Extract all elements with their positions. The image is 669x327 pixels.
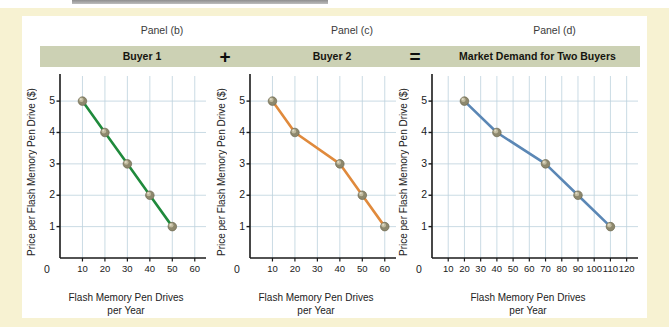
y-tick-label: 3 [38, 157, 55, 169]
y-tick-label: 4 [228, 125, 245, 137]
x-tick-label: 30 [117, 263, 137, 274]
x-tick-label: 60 [185, 263, 205, 274]
chart-panel-c: Price per Flash Memory Pen Drive ($) Fla… [214, 70, 400, 310]
x-axis-origin-label: 0 [416, 263, 422, 275]
x-axis-label-b: Flash Memory Pen Drives per Year [42, 292, 210, 317]
y-axis-label-b: Price per Flash Memory Pen Drive ($) [26, 72, 37, 272]
x-tick-label: 10 [262, 263, 282, 274]
x-tick-label: 40 [330, 263, 350, 274]
y-tick-label: 2 [410, 188, 427, 200]
x-axis-label-b-line1: Flash Memory Pen Drives [68, 292, 183, 303]
x-tick-label: 120 [617, 263, 637, 274]
plot-area-d [414, 70, 642, 275]
x-axis-label-d: Flash Memory Pen Drives per Year [414, 292, 642, 317]
x-axis-label-d-line2: per Year [509, 305, 546, 316]
x-tick-label: 20 [95, 263, 115, 274]
y-tick-label: 5 [38, 94, 55, 106]
x-tick-label: 60 [375, 263, 395, 274]
x-tick-label: 50 [162, 263, 182, 274]
y-tick-label: 3 [410, 157, 427, 169]
x-tick-label: 50 [352, 263, 372, 274]
x-axis-origin-label: 0 [44, 263, 50, 275]
y-axis-label-c: Price per Flash Memory Pen Drive ($) [216, 72, 227, 272]
x-axis-label-b-line2: per Year [107, 305, 144, 316]
chart-panel-d: Price per Flash Memory Pen Drive ($) Fla… [396, 70, 641, 310]
y-tick-label: 1 [38, 220, 55, 232]
plus-sign-icon: + [210, 47, 240, 66]
x-tick-label: 10 [72, 263, 92, 274]
y-tick-label: 5 [228, 94, 245, 106]
x-axis-label-c: Flash Memory Pen Drives per Year [232, 292, 400, 317]
x-axis-label-d-line1: Flash Memory Pen Drives [470, 292, 585, 303]
panel-caption-b: Panel (b) [82, 24, 242, 36]
band-title-market-demand: Market Demand for Two Buyers [440, 50, 635, 62]
y-tick-label: 5 [410, 94, 427, 106]
x-axis-origin-label: 0 [234, 263, 240, 275]
panel-header-band: Buyer 1 + = Buyer 2 Market Demand for Tw… [40, 46, 640, 67]
y-tick-label: 2 [38, 188, 55, 200]
panel-caption-d: Panel (d) [462, 24, 647, 36]
x-tick-label: 40 [140, 263, 160, 274]
plot-area-c [232, 70, 400, 275]
band-title-buyer-2: Buyer 2 [252, 50, 412, 62]
y-tick-label: 1 [228, 220, 245, 232]
chart-panel-b: Price per Flash Memory Pen Drive ($) Fla… [24, 70, 210, 310]
band-title-buyer-1: Buyer 1 [62, 50, 222, 62]
x-tick-label: 30 [307, 263, 327, 274]
y-tick-label: 4 [410, 125, 427, 137]
panel-caption-row: Panel (b) Panel (c) Panel (d) [22, 24, 647, 44]
y-tick-label: 3 [228, 157, 245, 169]
y-axis-label-d: Price per Flash Memory Pen Drive ($) [398, 72, 409, 272]
figure-frame: Panel (b) Panel (c) Panel (d) Buyer 1 + … [0, 8, 669, 327]
x-axis-label-c-line1: Flash Memory Pen Drives [258, 292, 373, 303]
y-tick-label: 4 [38, 125, 55, 137]
x-tick-label: 20 [285, 263, 305, 274]
plot-area-b [42, 70, 210, 275]
y-tick-label: 2 [228, 188, 245, 200]
x-axis-label-c-line2: per Year [297, 305, 334, 316]
y-tick-label: 1 [410, 220, 427, 232]
panel-caption-c: Panel (c) [272, 24, 432, 36]
